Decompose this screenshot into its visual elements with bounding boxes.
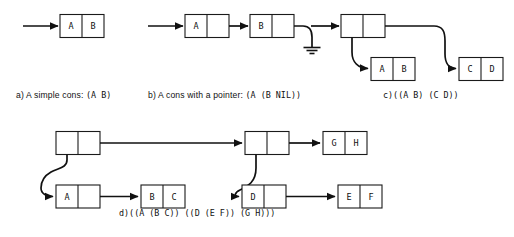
cell-label-c-right-car: C bbox=[467, 64, 472, 74]
cell-label-d-a-car: A bbox=[64, 192, 69, 202]
caption-b-label: b) bbox=[148, 90, 156, 100]
cons-b-first: A bbox=[185, 15, 229, 38]
caption-b-code: (A (B NIL)) bbox=[246, 90, 301, 100]
cell-label-d-gh-cdr: H bbox=[353, 138, 358, 148]
cell-label-d-bc-car: B bbox=[149, 192, 154, 202]
cons-c-root bbox=[341, 15, 385, 38]
pointer-b-second-cdr-to-ground bbox=[294, 26, 312, 47]
box-and-pointer-diagram: A B A B bbox=[0, 0, 514, 237]
cons-d-gh: G H bbox=[323, 132, 367, 155]
cons-d-ef: E F bbox=[338, 185, 382, 208]
caption-c-code: ((A B) (C D)) bbox=[393, 90, 459, 100]
cell-label-d-d-car: D bbox=[250, 192, 255, 202]
cell-label-d-ef-car: E bbox=[346, 192, 351, 202]
pointer-c-root-car bbox=[352, 38, 368, 69]
cell-label-c-right-cdr: D bbox=[489, 64, 494, 74]
cons-d-root bbox=[56, 132, 100, 155]
caption-c: c)((A B) (C D)) bbox=[383, 90, 459, 100]
panel-d: A B C G H bbox=[41, 132, 382, 209]
cell-label-b-second-car: B bbox=[258, 21, 263, 31]
caption-a-code: (A B) bbox=[86, 90, 111, 100]
cell-label-a-car: A bbox=[68, 21, 73, 31]
caption-a: a) A simple cons: (A B) bbox=[16, 90, 111, 100]
panel-c: A B C D bbox=[311, 15, 503, 81]
cell-label-d-bc-cdr: C bbox=[171, 192, 176, 202]
cell-label-b-first-car: A bbox=[193, 21, 198, 31]
caption-d: d)((A (B C)) ((D (E F)) (G H))) bbox=[119, 208, 275, 218]
cell-label-a-cdr: B bbox=[90, 21, 95, 31]
panel-b: A B bbox=[148, 15, 321, 54]
cons-c-right: C D bbox=[459, 58, 503, 81]
caption-d-label: d) bbox=[119, 208, 129, 218]
caption-c-label: c) bbox=[383, 90, 393, 100]
caption-d-code: ((A (B C)) ((D (E F)) (G H))) bbox=[129, 208, 275, 218]
cell-label-d-gh-car: G bbox=[331, 138, 336, 148]
nil-ground-icon bbox=[304, 48, 321, 54]
caption-a-prose: A simple cons: bbox=[24, 90, 86, 100]
cons-d-second bbox=[245, 132, 289, 155]
cons-b-second: B bbox=[250, 15, 294, 38]
cell-label-d-ef-cdr: F bbox=[368, 192, 373, 202]
figure-root: A B A B bbox=[0, 0, 514, 237]
caption-b: b) A cons with a pointer: (A (B NIL)) bbox=[148, 90, 301, 100]
cons-d-a: A bbox=[56, 185, 100, 208]
cons-c-left: A B bbox=[371, 58, 415, 81]
cons-a-root: A B bbox=[60, 15, 104, 38]
caption-b-prose: A cons with a pointer: bbox=[156, 90, 246, 100]
caption-a-label: a) bbox=[16, 90, 24, 100]
cons-d-bc: B C bbox=[141, 185, 185, 208]
cons-d-d: D bbox=[242, 185, 286, 208]
cell-label-c-left-cdr: B bbox=[401, 64, 406, 74]
panel-a: A B bbox=[23, 15, 104, 38]
cell-label-c-left-car: A bbox=[379, 64, 384, 74]
